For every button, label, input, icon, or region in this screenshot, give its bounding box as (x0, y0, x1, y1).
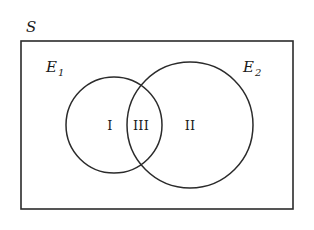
region-label-one: I (107, 118, 112, 133)
universe-label-s: S (26, 18, 36, 36)
venn-diagram-figure: S E1 E2 I III II (0, 0, 314, 230)
set-label-e1-subscript: 1 (58, 67, 64, 78)
set-label-e2-subscript: 2 (254, 67, 261, 78)
set-label-e1-base: E (45, 58, 57, 76)
set-label-e2: E2 (242, 58, 261, 78)
venn-diagram-canvas: S E1 E2 I III II (0, 0, 314, 230)
region-label-two: II (185, 118, 196, 133)
region-label-three: III (133, 118, 149, 133)
set-label-e2-base: E (242, 58, 254, 76)
set-label-e1: E1 (45, 58, 64, 78)
